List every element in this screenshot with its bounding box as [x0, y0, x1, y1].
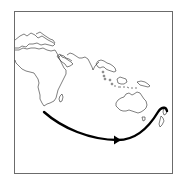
map-illustration — [0, 0, 184, 188]
map-svg — [0, 0, 184, 188]
map-frame — [15, 12, 173, 174]
